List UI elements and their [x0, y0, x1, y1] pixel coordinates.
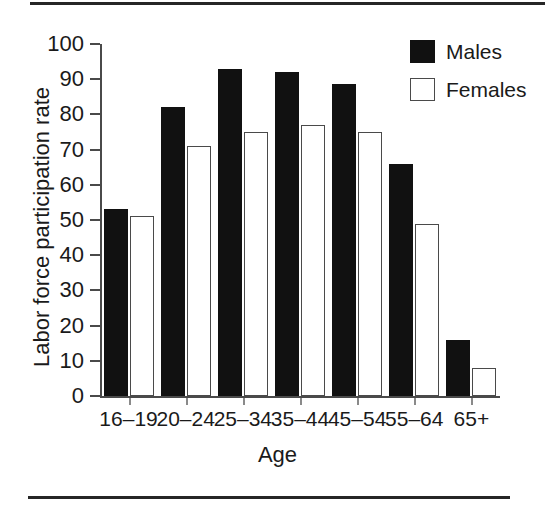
x-axis-tick	[471, 398, 473, 405]
y-axis-title: Labor force participation rate	[30, 47, 54, 407]
x-axis-tick	[357, 398, 359, 405]
legend-swatch-icon	[410, 78, 435, 101]
bar-males-45–54	[332, 84, 356, 396]
y-axis-tick	[90, 184, 100, 186]
bar-females-25–34	[244, 132, 268, 396]
legend: MalesFemales	[410, 40, 527, 116]
y-axis-tick	[90, 43, 100, 45]
y-axis-tick	[90, 149, 100, 151]
bar-females-35–44	[301, 125, 325, 396]
bar-males-35–44	[275, 72, 299, 396]
x-axis-tick	[243, 398, 245, 405]
y-axis-tick	[90, 289, 100, 291]
bar-males-65+	[446, 340, 470, 396]
y-axis-tick	[90, 78, 100, 80]
x-axis-title: Age	[0, 443, 555, 467]
bar-males-25–34	[218, 69, 242, 396]
legend-item-males: Males	[410, 40, 527, 63]
x-axis-tick	[129, 398, 131, 405]
y-axis-tick	[90, 395, 100, 397]
y-axis-tick	[90, 113, 100, 115]
bottom-divider-rule	[28, 496, 510, 499]
y-axis-tick	[90, 219, 100, 221]
legend-swatch-icon	[410, 40, 435, 63]
y-axis-tick	[90, 254, 100, 256]
bar-males-55–64	[389, 164, 413, 396]
bar-females-65+	[472, 368, 496, 396]
bar-males-16–19	[104, 209, 128, 396]
bar-females-16–19	[130, 216, 154, 396]
y-axis-tick	[90, 360, 100, 362]
x-axis-tick	[186, 398, 188, 405]
bar-females-45–54	[358, 132, 382, 396]
legend-label: Males	[446, 41, 502, 63]
x-axis-tick	[300, 398, 302, 405]
bar-females-55–64	[415, 224, 439, 396]
legend-item-females: Females	[410, 78, 527, 101]
top-divider-rule	[30, 2, 545, 5]
x-axis-tick	[414, 398, 416, 405]
bar-males-20–24	[161, 107, 185, 396]
y-axis-tick	[90, 325, 100, 327]
legend-label: Females	[446, 79, 527, 101]
bar-females-20–24	[187, 146, 211, 396]
x-axis-category-label: 65+	[435, 407, 508, 431]
chart-figure: 1009080706050403020100 Labor force parti…	[0, 0, 555, 508]
